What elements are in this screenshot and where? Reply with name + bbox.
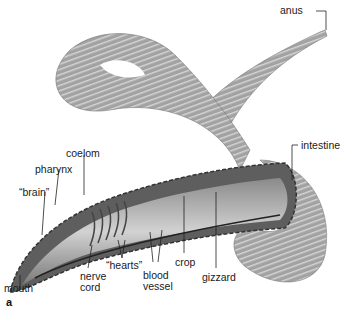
label-gizzard: gizzard — [202, 272, 236, 283]
panel-label: a — [6, 296, 12, 308]
label-anus: anus — [280, 5, 303, 16]
label-crop: crop — [175, 257, 195, 268]
label-hearts: “hearts” — [106, 260, 142, 271]
label-intestine: intestine — [301, 140, 340, 151]
earthworm-diagram: anus intestine coelom pharynx “brain” “h… — [0, 0, 358, 312]
label-brain: “brain” — [19, 187, 49, 198]
label-mouth: mouth — [4, 283, 33, 294]
label-coelom: coelom — [66, 148, 100, 159]
label-pharynx: pharynx — [35, 164, 72, 175]
label-nerve-cord-2: cord — [80, 282, 100, 293]
label-blood-vessel-2: vessel — [143, 281, 173, 292]
